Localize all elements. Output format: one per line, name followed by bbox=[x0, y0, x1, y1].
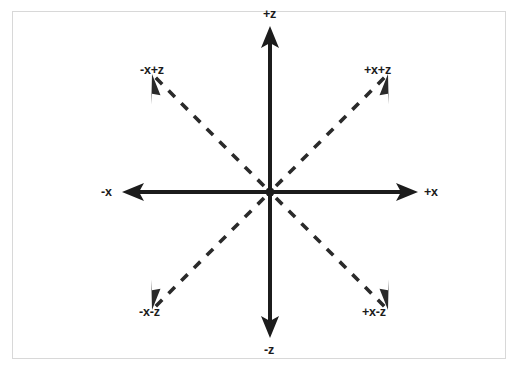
axis-label-neg-x-neg-z: -x-z bbox=[139, 306, 160, 319]
axis-label-neg-x-pos-z: -x+z bbox=[140, 64, 164, 77]
axis-line-pos-x-neg-z bbox=[276, 198, 388, 310]
arrowhead-neg-x-pos-z bbox=[136, 74, 166, 104]
axis-diagram bbox=[0, 0, 532, 383]
axis-line-neg-x-pos-z bbox=[152, 74, 264, 186]
axis-line-neg-x-neg-z bbox=[152, 198, 264, 310]
axis-label-pos-x-neg-z: +x-z bbox=[362, 306, 386, 319]
axis-label-neg-z: -z bbox=[264, 344, 274, 357]
origin-dot bbox=[266, 188, 275, 197]
axis-line-pos-x-pos-z bbox=[276, 74, 388, 186]
diagram-canvas: +z -z +x -x +x+z -x+z -x-z +x-z bbox=[0, 0, 532, 383]
axis-label-neg-x: -x bbox=[101, 186, 112, 199]
axis-label-pos-x-pos-z: +x+z bbox=[364, 64, 391, 77]
axis-label-pos-z: +z bbox=[263, 8, 276, 21]
arrowhead-pos-x-pos-z bbox=[373, 74, 403, 104]
axis-label-pos-x: +x bbox=[424, 186, 438, 199]
